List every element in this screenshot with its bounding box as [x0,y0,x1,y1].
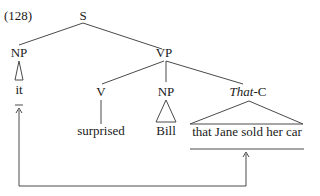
leaf-it: it [15,82,23,97]
node-np-subject: NP [11,45,28,60]
np-subject-triangle [15,61,23,80]
node-that-c: That-C [230,84,267,99]
syntax-tree-diagram: (128) S NP it VP V surprised NP Bill Tha… [0,0,320,196]
node-that-c-italic: That [230,84,254,99]
leaf-surprised: surprised [77,123,125,138]
np-object-triangle [156,100,176,122]
edge-s-vp [83,23,162,49]
extraposition-arrow-path [19,110,246,186]
node-that-c-rest: -C [253,84,266,99]
node-s: S [79,8,86,23]
node-vp: VP [156,45,173,60]
that-c-triangle [190,101,303,124]
leaf-that-clause: that Jane sold her car [192,124,302,139]
leaf-bill: Bill [156,123,176,138]
node-v: V [96,84,106,99]
example-number: (128) [4,8,32,23]
node-np-object: NP [158,84,175,99]
edge-s-np [19,23,83,45]
edge-vp-v [102,61,164,84]
edge-vp-thatc [166,61,243,84]
